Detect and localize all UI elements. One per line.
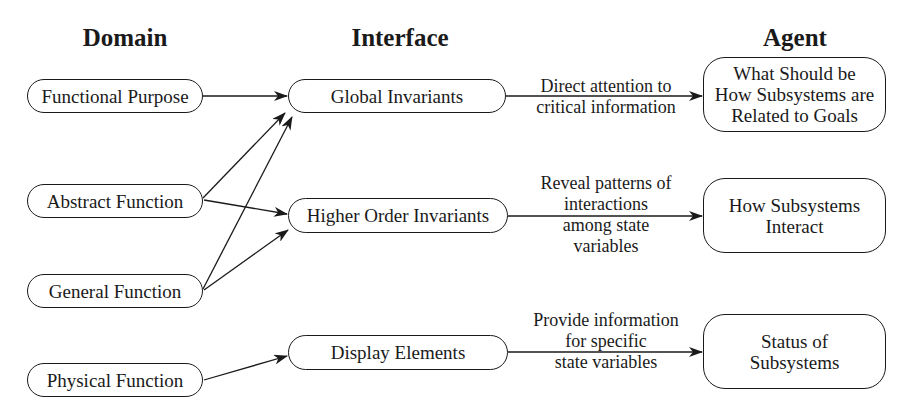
node-physical-function: Physical Function — [27, 363, 203, 397]
node-functional-purpose: Functional Purpose — [27, 79, 203, 113]
node-display-elements: Display Elements — [288, 335, 508, 370]
edge-physical-function-to-display-elements — [204, 356, 287, 380]
edge-abstract-function-to-global-invariants — [203, 113, 285, 198]
edge-label-provide-information-line-1: Provide information — [508, 310, 704, 331]
node-status-of-subsystems-line-1: Status of — [761, 331, 828, 352]
node-general-function: General Function — [27, 274, 203, 308]
column-heading-interface: Interface — [325, 23, 475, 53]
edge-label-provide-information: Provide information for specific state v… — [508, 310, 704, 373]
node-how-subsystems-interact-line-2: Interact — [765, 216, 823, 237]
edge-label-reveal-patterns-line-2: interactions — [508, 194, 704, 215]
edge-label-reveal-patterns-line-3: among state — [508, 215, 704, 236]
node-global-invariants: Global Invariants — [288, 79, 506, 113]
edge-label-reveal-patterns-line-1: Reveal patterns of — [508, 173, 704, 194]
edge-label-reveal-patterns-line-4: variables — [508, 236, 704, 257]
column-heading-agent: Agent — [740, 23, 850, 53]
node-what-should-be-line-1: What Should be — [733, 63, 855, 84]
node-what-should-be-line-2: How Subsystems are — [715, 84, 874, 105]
edge-label-reveal-patterns: Reveal patterns of interactions among st… — [508, 173, 704, 257]
node-what-should-be: What Should be How Subsystems are Relate… — [703, 57, 886, 132]
edge-label-direct-attention-line-2: critical information — [508, 97, 704, 118]
node-how-subsystems-interact-line-1: How Subsystems — [729, 195, 860, 216]
column-heading-domain: Domain — [60, 23, 190, 53]
edge-label-provide-information-line-2: for specific — [508, 331, 704, 352]
edge-label-direct-attention: Direct attention to critical information — [508, 76, 704, 118]
node-higher-order-invariants: Higher Order Invariants — [288, 198, 508, 233]
edge-abstract-function-to-higher-order-invariants — [204, 200, 287, 214]
node-how-subsystems-interact: How Subsystems Interact — [703, 178, 886, 253]
edge-label-provide-information-line-3: state variables — [508, 352, 704, 373]
edge-general-function-to-higher-order-invariants — [204, 230, 288, 290]
node-status-of-subsystems-line-2: Subsystems — [750, 352, 840, 373]
node-abstract-function: Abstract Function — [27, 184, 203, 218]
edge-general-function-to-global-invariants — [203, 117, 292, 289]
node-status-of-subsystems: Status of Subsystems — [703, 314, 886, 389]
node-what-should-be-line-3: Related to Goals — [731, 105, 858, 126]
edge-label-direct-attention-line-1: Direct attention to — [508, 76, 704, 97]
